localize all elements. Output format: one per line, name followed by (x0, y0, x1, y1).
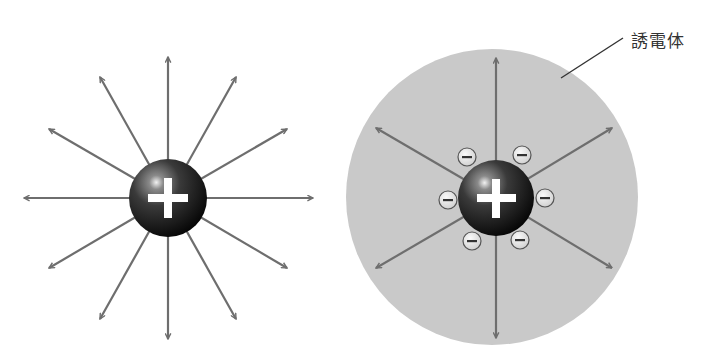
minus-icon (462, 156, 472, 158)
vacuum-panel (24, 57, 313, 339)
minus-icon (540, 197, 550, 199)
dielectric-label: 誘電体 (631, 27, 685, 52)
negative-ion (439, 191, 457, 209)
positive-charge-dielectric (458, 160, 534, 236)
minus-icon (443, 199, 453, 201)
field-lines-diagram (0, 0, 712, 362)
negative-ion (536, 189, 554, 207)
negative-ion (458, 148, 476, 166)
minus-icon (467, 240, 477, 242)
dielectric-panel (346, 38, 638, 345)
dielectric-leader-line (561, 38, 623, 78)
minus-icon (515, 239, 525, 241)
negative-ion (511, 231, 529, 249)
positive-charge-vacuum (129, 159, 207, 237)
negative-ion (513, 146, 531, 164)
negative-ion (463, 232, 481, 250)
minus-icon (517, 154, 527, 156)
